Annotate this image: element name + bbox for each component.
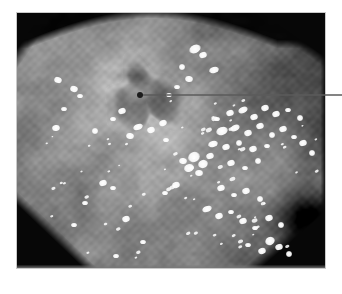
- endoscopy-image[interactable]: [17, 13, 325, 268]
- endoscopy-figure: [0, 0, 342, 294]
- endoscopy-photo-frame[interactable]: [17, 13, 325, 268]
- caption-mark: [41, 278, 55, 286]
